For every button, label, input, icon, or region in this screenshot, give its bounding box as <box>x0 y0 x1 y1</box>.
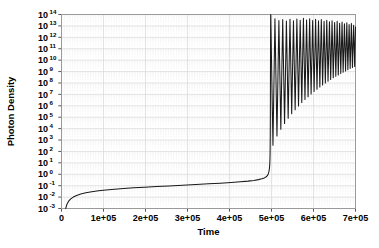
svg-text:5: 5 <box>50 111 54 118</box>
svg-text:8: 8 <box>50 76 54 83</box>
photon-density-figure: 1014101310121011101010910810710610510410… <box>0 0 379 248</box>
svg-text:-1: -1 <box>50 179 56 186</box>
photon-density-chart: 1014101310121011101010910810710610510410… <box>0 0 379 248</box>
svg-text:10: 10 <box>38 181 48 191</box>
svg-text:6e+05: 6e+05 <box>301 213 326 223</box>
svg-text:-2: -2 <box>50 190 56 197</box>
svg-text:10: 10 <box>38 33 48 43</box>
svg-text:10: 10 <box>38 112 48 122</box>
svg-text:7e+05: 7e+05 <box>343 213 368 223</box>
svg-text:10: 10 <box>38 169 48 179</box>
svg-text:9: 9 <box>50 65 54 72</box>
svg-text:-3: -3 <box>50 202 56 209</box>
svg-text:10: 10 <box>38 78 48 88</box>
svg-text:2: 2 <box>50 145 54 152</box>
svg-text:4e+05: 4e+05 <box>217 213 242 223</box>
svg-text:10: 10 <box>38 55 48 65</box>
svg-text:0: 0 <box>50 168 54 175</box>
svg-text:3e+05: 3e+05 <box>175 213 200 223</box>
svg-text:1e+05: 1e+05 <box>91 213 116 223</box>
svg-text:12: 12 <box>50 31 57 38</box>
svg-text:10: 10 <box>38 147 48 157</box>
svg-text:0: 0 <box>59 213 64 223</box>
svg-text:1: 1 <box>50 156 54 163</box>
svg-text:3: 3 <box>50 133 54 140</box>
y-axis-title: Photon Density <box>5 76 16 146</box>
svg-text:5e+05: 5e+05 <box>259 213 284 223</box>
svg-text:6: 6 <box>50 99 54 106</box>
svg-text:4: 4 <box>50 122 54 129</box>
svg-text:10: 10 <box>38 192 48 202</box>
svg-text:2e+05: 2e+05 <box>133 213 158 223</box>
svg-text:10: 10 <box>38 67 48 77</box>
x-axis-title: Time <box>197 226 219 237</box>
svg-text:10: 10 <box>38 10 48 20</box>
svg-text:11: 11 <box>50 42 57 49</box>
svg-text:10: 10 <box>38 158 48 168</box>
svg-text:10: 10 <box>38 90 48 100</box>
svg-text:10: 10 <box>50 54 57 61</box>
svg-text:10: 10 <box>38 21 48 31</box>
svg-text:10: 10 <box>38 44 48 54</box>
svg-text:10: 10 <box>38 135 48 145</box>
svg-text:13: 13 <box>50 19 57 26</box>
svg-text:10: 10 <box>38 204 48 214</box>
svg-text:14: 14 <box>50 8 57 15</box>
svg-text:10: 10 <box>38 124 48 134</box>
svg-text:10: 10 <box>38 101 48 111</box>
svg-text:7: 7 <box>50 88 54 95</box>
